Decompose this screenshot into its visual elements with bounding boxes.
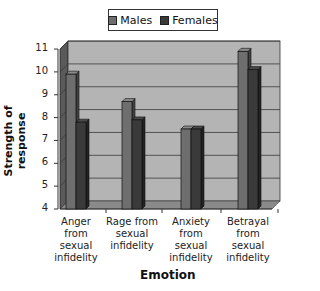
bar-males xyxy=(238,51,248,209)
bar-side xyxy=(201,126,204,209)
bar-females xyxy=(76,122,86,209)
y-tick-label: 9 xyxy=(34,88,48,99)
x-category-label: Anxietyfromsexualinfidelity xyxy=(165,216,217,264)
x-category-label: Rage fromsexualinfidelity xyxy=(106,216,158,252)
bar-side xyxy=(86,119,89,209)
bar-side xyxy=(142,117,145,209)
x-category-label: Angerfromsexualinfidelity xyxy=(50,216,102,264)
x-axis-title: Emotion xyxy=(140,268,196,282)
bar-females xyxy=(132,120,142,209)
y-tick-label: 10 xyxy=(34,65,48,76)
y-tick-label: 6 xyxy=(34,156,48,167)
bar-males xyxy=(122,102,132,209)
bar-females xyxy=(191,129,201,209)
y-tick-label: 8 xyxy=(34,111,48,122)
x-category-label: Betrayalfromsexualinfidelity xyxy=(222,216,274,264)
bar-side xyxy=(258,67,261,209)
y-tick-label: 7 xyxy=(34,133,48,144)
y-tick-label: 11 xyxy=(34,42,48,53)
y-tick-label: 4 xyxy=(34,202,48,213)
y-tick-label: 5 xyxy=(34,179,48,190)
bar-males xyxy=(66,74,76,209)
bar-females xyxy=(248,70,258,209)
bar-males xyxy=(181,129,191,209)
